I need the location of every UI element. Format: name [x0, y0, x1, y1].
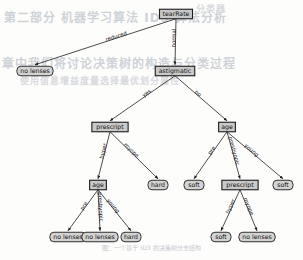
tree-internal-node[interactable]: age — [90, 180, 107, 190]
tree-leaf-node[interactable]: soft — [211, 232, 231, 242]
figure-caption: 图：一个基于 ID3 的决策树分支结构 — [0, 243, 303, 252]
tree-node-label: no lenses — [53, 233, 82, 240]
tree-node-label: astigmatic — [159, 67, 192, 75]
tree-node-label: soft — [215, 233, 227, 240]
tree-node-label: hard — [151, 181, 165, 188]
tree-edge-label: pre — [207, 144, 218, 156]
tree-internal-node[interactable]: astigmatic — [155, 66, 195, 76]
tree-internal-node[interactable]: prescript — [92, 122, 128, 132]
tree-edge — [175, 76, 227, 121]
tree-node-label: age — [221, 123, 233, 131]
tree-edge-label: no — [194, 89, 203, 98]
tree-edge-label: myope — [242, 197, 256, 217]
tree-node-label: prescript — [96, 123, 124, 131]
tree-edge-label: young — [243, 142, 260, 158]
tree-node-label: soft — [277, 181, 289, 188]
tree-internal-node[interactable]: tearRate — [160, 9, 193, 19]
tree-node-label: age — [92, 181, 104, 189]
tree-edge-label: normal — [170, 29, 176, 48]
tree-edge-label: hyper — [98, 142, 109, 160]
tree-node-label: soft — [188, 181, 200, 188]
tree-internal-node[interactable]: age — [219, 122, 236, 132]
tree-node-label: no lenses — [242, 233, 271, 240]
tree-node-label: prescript — [226, 181, 254, 189]
tree-edge-label: yes — [141, 88, 153, 99]
tree-leaf-node[interactable]: no lenses — [50, 232, 86, 242]
tree-edge-label: young — [105, 197, 121, 214]
tree-leaf-node[interactable]: no lenses — [17, 66, 53, 76]
tree-node-label: tearRate — [163, 10, 190, 17]
tree-edge-label: pre — [79, 200, 90, 212]
tree-leaf-node[interactable]: no lenses — [239, 232, 275, 242]
tree-leaf-node[interactable]: hard — [148, 180, 168, 190]
tree-node-label: no lenses — [20, 67, 49, 74]
figure-canvas: 第二部分 机器学习算法 ID3 算法分析 章中我们将讨论决策树的构造与分类过程 … — [0, 0, 303, 260]
tree-leaf-node[interactable]: no lenses — [82, 232, 118, 242]
tree-leaf-node[interactable]: soft — [273, 180, 293, 190]
tree-edge-label: reduced — [105, 30, 128, 43]
tree-edge — [110, 76, 175, 121]
tree-node-label: no lenses — [85, 233, 114, 240]
tree-internal-node[interactable]: prescript — [222, 180, 258, 190]
tree-node-label: hard — [124, 233, 138, 240]
tree-edge-label: presbyopic — [227, 136, 242, 166]
tree-leaf-node[interactable]: hard — [121, 232, 141, 242]
tree-edge-label: myope — [122, 141, 141, 159]
decision-tree-graph: reducednormalyesnohypermyopeprepresbyopi… — [0, 0, 303, 260]
tree-edge-label: presbyopic — [96, 192, 104, 222]
tree-leaf-node[interactable]: soft — [184, 180, 204, 190]
